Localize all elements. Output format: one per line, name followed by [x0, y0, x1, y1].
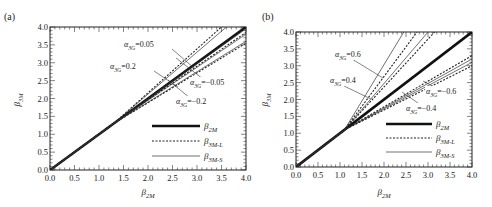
- x-tick-label: 0.5: [69, 173, 80, 183]
- x-tick-label: 2.0: [143, 173, 154, 183]
- y-tick-label: 3.0: [283, 61, 294, 71]
- annotation-label: α3G=0.4: [330, 76, 356, 87]
- y-tick-label: 4.0: [37, 22, 48, 32]
- y-tick-label: 1.5: [283, 111, 294, 121]
- x-tick-label: 3.0: [423, 170, 434, 180]
- y-tick-label: 0.5: [37, 147, 48, 157]
- y-tick-label: 1.5: [37, 111, 48, 121]
- x-tick-label: 3.5: [216, 173, 227, 183]
- panel-label: (a): [4, 11, 15, 23]
- chart-panel-a: 0.00.51.01.52.02.53.03.54.00.00.51.01.52…: [4, 11, 251, 199]
- x-tick-label: 2.5: [167, 173, 178, 183]
- annotation-label: α3G=0.2: [110, 62, 136, 73]
- x-tick-label: 4.0: [241, 173, 252, 183]
- y-tick-label: 0.0: [37, 165, 48, 175]
- y-tick-label: 4.0: [283, 27, 294, 37]
- y-tick-label: 3.5: [283, 44, 294, 54]
- y-tick-label: 2.5: [37, 76, 48, 86]
- chart-panel-b: 0.00.51.01.52.02.53.03.54.00.00.51.01.52…: [260, 11, 477, 199]
- y-tick-label: 2.5: [283, 78, 294, 88]
- x-axis-title: β2M: [140, 187, 155, 199]
- x-tick-label: 4.0: [467, 170, 478, 180]
- x-tick-label: 1.0: [94, 173, 105, 183]
- y-tick-label: 2.0: [283, 95, 294, 105]
- y-tick-label: 1.0: [37, 129, 48, 139]
- y-tick-label: 3.5: [37, 40, 48, 50]
- x-axis-title: β2M: [376, 187, 391, 199]
- x-tick-label: 3.5: [445, 170, 456, 180]
- x-tick-label: 1.5: [357, 170, 368, 180]
- y-tick-label: 3.0: [37, 58, 48, 68]
- y-tick-label: 2.0: [37, 94, 48, 104]
- annotation-label: α3G=0.6: [335, 50, 361, 61]
- x-tick-label: 1.5: [118, 173, 129, 183]
- y-axis-title: β3M: [260, 93, 272, 108]
- x-tick-label: 2.5: [401, 170, 412, 180]
- y-tick-label: 0.5: [283, 145, 294, 155]
- y-axis-title: β3M: [12, 93, 24, 108]
- x-tick-label: 1.0: [335, 170, 346, 180]
- panel-label: (b): [262, 11, 274, 23]
- x-tick-label: 3.0: [192, 173, 203, 183]
- figure: 0.00.51.01.52.02.53.03.54.00.00.51.01.52…: [0, 0, 492, 207]
- y-tick-label: 1.0: [283, 128, 294, 138]
- y-tick-label: 0.0: [283, 162, 294, 172]
- x-tick-label: 2.0: [379, 170, 390, 180]
- x-tick-label: 0.5: [313, 170, 324, 180]
